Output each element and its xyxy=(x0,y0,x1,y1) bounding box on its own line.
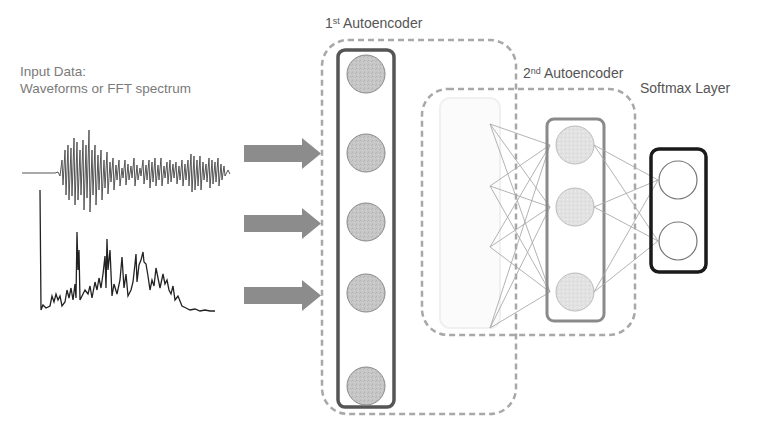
hidden-node xyxy=(556,273,594,311)
hidden-layer-nodes xyxy=(556,126,594,311)
input-node xyxy=(347,274,385,312)
softmax-nodes xyxy=(659,161,697,260)
ghost-layer-panel xyxy=(440,98,500,328)
waveform-signal xyxy=(22,130,230,212)
input-layer-nodes xyxy=(347,55,385,405)
hidden-node xyxy=(556,188,594,226)
arrow-right-icon xyxy=(244,208,321,239)
hidden-node xyxy=(556,126,594,164)
input-node xyxy=(347,203,385,241)
arrow-right-icon xyxy=(244,280,321,311)
input-node xyxy=(347,134,385,172)
softmax-node xyxy=(659,161,697,199)
input-node xyxy=(347,55,385,93)
softmax-node xyxy=(659,222,697,260)
fft-spectrum-signal xyxy=(40,190,215,311)
arrow-right-icon xyxy=(244,138,321,169)
input-node xyxy=(347,367,385,405)
network-diagram xyxy=(0,0,768,444)
input-arrows xyxy=(244,138,321,311)
